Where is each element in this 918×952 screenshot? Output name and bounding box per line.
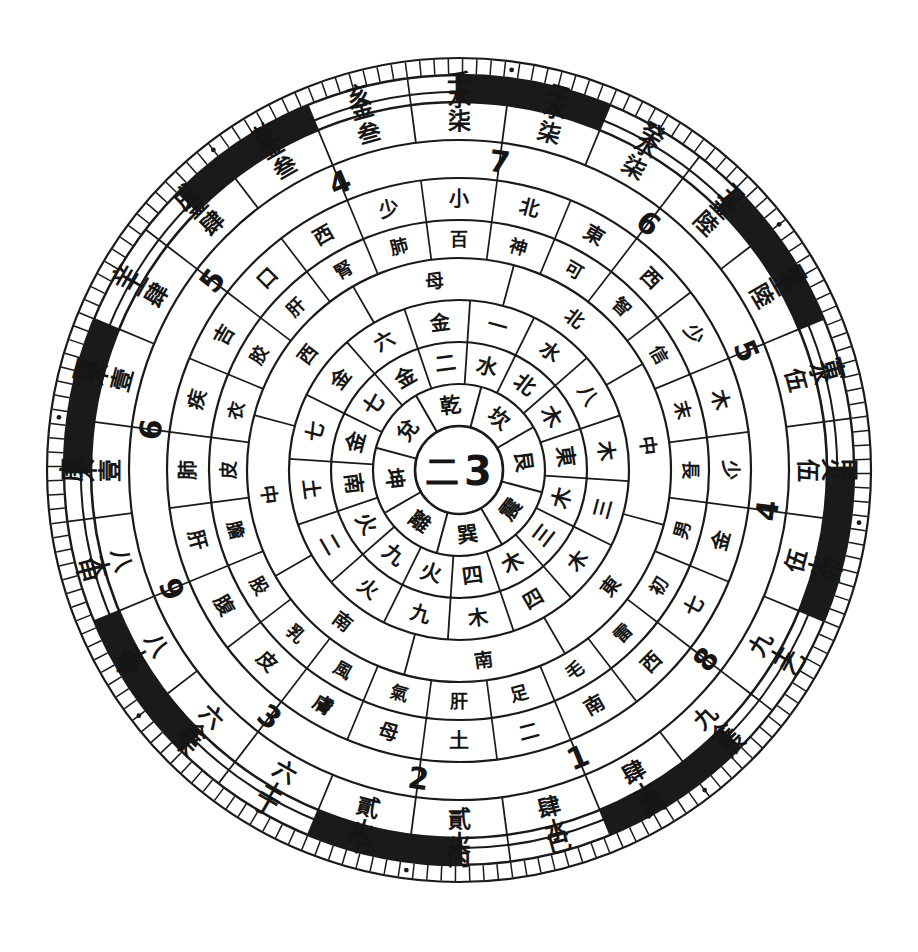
ring-direction-2: 東	[596, 572, 625, 600]
outer-tick-40	[837, 346, 851, 351]
outer-tick-142	[51, 423, 66, 425]
outer-tick-55	[846, 556, 861, 559]
ring-organ-6: 少	[718, 459, 742, 480]
outer-tick-53	[851, 529, 866, 531]
spoke-r8-23	[318, 130, 333, 165]
outer-black-arc-0	[456, 75, 611, 130]
outer-tick-22	[695, 140, 704, 152]
spoke-r2-4	[545, 476, 587, 479]
ring-arabic-3: 4	[749, 498, 786, 523]
spoke-r4-7	[353, 286, 374, 322]
ring-elem-num-2: 八	[573, 381, 604, 411]
ring-organ-2: 東	[580, 220, 609, 251]
outer-tick-5	[476, 59, 477, 74]
outer-tick-47	[854, 445, 869, 446]
ring-body-5: 末	[670, 399, 695, 423]
outer-tick-60	[825, 622, 839, 628]
outer-tick-16	[623, 96, 629, 110]
outer-tick-96	[427, 865, 428, 880]
outer-tick-2	[434, 60, 435, 75]
ring-organ-9: 西	[635, 646, 666, 677]
outer-tick-46	[853, 431, 868, 432]
spoke-r4-2	[623, 514, 664, 525]
spoke-r8-2	[585, 130, 600, 165]
outer-tick-14	[598, 85, 603, 99]
ring-trigram-pair-8: 火	[418, 559, 444, 588]
ring-trigram-pair-13: 七	[358, 389, 390, 420]
ring-body-8: 初	[645, 572, 672, 598]
ring-boundary-6	[167, 178, 751, 762]
outer-tick-137	[49, 494, 64, 495]
outer-tick-118	[151, 732, 162, 742]
ring-organ-22: 西	[309, 220, 338, 251]
ring-direction-4: 南	[328, 607, 356, 636]
outer-tick-129	[72, 602, 86, 607]
spoke-r5-1	[487, 180, 497, 259]
ring-trigram-pair-12: 金	[341, 428, 370, 456]
outer-tick-0	[405, 63, 407, 78]
ring-organ-19: 疾	[183, 386, 212, 412]
ring-body-15: 乳	[282, 620, 310, 648]
ring-elem-num-11: 土	[298, 478, 324, 501]
ring-elem-num-6: 四	[519, 584, 548, 615]
spoke-r8-8	[764, 596, 799, 611]
outer-tick-77	[678, 800, 686, 813]
spoke-r5-2	[540, 200, 571, 274]
center-number[interactable]: 3	[464, 448, 492, 494]
outer-tick-107	[276, 824, 283, 837]
ring-organ-15: 皮	[252, 646, 283, 677]
outer-tick-74	[711, 776, 721, 788]
ring-body-0: 百	[450, 229, 468, 250]
spoke-r2-12	[331, 462, 373, 465]
outer-tick-149	[74, 326, 88, 331]
spoke-r3-14	[347, 342, 375, 374]
outer-tick-98	[398, 862, 400, 877]
ring-elem-num-15: 金	[427, 309, 452, 336]
ring-branch-0: 壬	[447, 69, 471, 97]
spoke-r5-19	[169, 432, 248, 442]
spoke-r3-6	[543, 566, 571, 598]
center-char[interactable]: 二	[425, 452, 459, 492]
ring-elem-num-4: 三	[589, 496, 617, 522]
outer-tick-17	[636, 102, 643, 115]
ring-organ-0: 小	[449, 187, 469, 211]
ring-trigram-pair-15: 二	[433, 351, 457, 378]
ring-trigram-4: 離	[404, 506, 435, 538]
outer-tick-67	[777, 706, 789, 715]
ring-direction-1: 中	[636, 434, 660, 456]
outer-dot-2	[857, 520, 862, 525]
outer-tick-80	[642, 821, 649, 834]
outer-tick-31	[781, 231, 793, 240]
ring-elem-num-7: 木	[466, 604, 491, 631]
ring-direction-7: 母	[423, 268, 445, 292]
outer-tick-84	[591, 843, 596, 857]
spoke-r8-3	[660, 178, 683, 208]
ring-organ-13: 母	[376, 718, 402, 746]
spoke-r3-1	[516, 318, 535, 356]
ring-trigram-1: 艮	[510, 450, 537, 475]
outer-tick-166	[220, 135, 229, 147]
spoke-r8-5	[764, 329, 799, 344]
spoke-r3-8	[448, 598, 451, 640]
ring-direction-6: 西	[293, 339, 322, 367]
spoke-r8-7	[786, 513, 824, 518]
outer-tick-85	[578, 848, 583, 862]
ring-trigram-pair-7: 四	[461, 563, 485, 590]
outer-dot-7	[211, 147, 216, 152]
ring-body-20: 胶	[245, 341, 272, 367]
spoke-r4-5	[275, 555, 311, 576]
ring-direction-3: 南	[473, 647, 495, 671]
outer-tick-44	[850, 402, 865, 404]
ring-body-22: 腎	[330, 256, 356, 283]
ring-organ-12: 土	[449, 729, 469, 753]
spoke-r8-1	[502, 105, 507, 143]
ring-organ-5: 木	[706, 386, 735, 413]
spoke-r3-0	[467, 300, 470, 342]
spoke-r3-9	[384, 585, 403, 623]
outer-tick-59	[830, 609, 844, 614]
spoke-r5-23	[347, 200, 378, 274]
outer-tick-45	[852, 416, 867, 418]
ring-elem-num-9: 火	[353, 573, 384, 605]
spoke-r2-8	[451, 556, 454, 598]
ring-trigram-pair-2: 木	[536, 401, 568, 433]
